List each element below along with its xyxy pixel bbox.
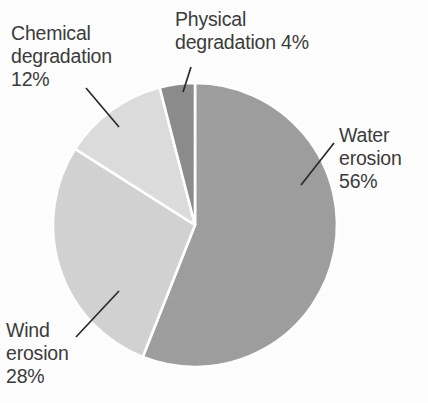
slice-label-water-erosion: Water erosion 56% — [339, 124, 402, 192]
slice-label-chemical-line3: 12% — [11, 68, 112, 91]
pie-chart-figure: Chemical degradation 12% Physical degrad… — [0, 0, 428, 403]
slice-label-wind-line2: erosion — [6, 342, 69, 365]
slice-label-water-line1: Water — [339, 124, 402, 147]
slice-label-wind-line3: 28% — [6, 365, 69, 388]
slice-label-chemical-line1: Chemical — [11, 22, 112, 45]
slice-label-physical-degradation: Physical degradation 4% — [175, 8, 309, 54]
slice-label-water-line2: erosion — [339, 147, 402, 170]
slice-label-wind-line1: Wind — [6, 319, 69, 342]
slice-label-chemical-degradation: Chemical degradation 12% — [11, 22, 112, 90]
slice-label-physical-line2: degradation 4% — [175, 31, 309, 54]
slice-label-water-line3: 56% — [339, 170, 402, 193]
slice-label-wind-erosion: Wind erosion 28% — [6, 319, 69, 387]
slice-label-chemical-line2: degradation — [11, 45, 112, 68]
pie-slice-group — [53, 83, 337, 367]
slice-label-physical-line1: Physical — [175, 8, 309, 31]
